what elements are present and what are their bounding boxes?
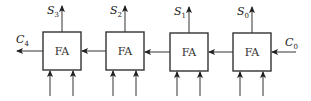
ripple-carry-adder-diagram: FA S3 FA S2 FA S1 FA S0 C4 C0 (0, 0, 311, 101)
full-adder-block-2: FA S2 (106, 4, 144, 96)
sum-label-s0: S0 (237, 5, 249, 20)
carry-in-label: C0 (285, 36, 298, 51)
carry-out-label: C4 (16, 33, 29, 48)
fa-label: FA (55, 45, 71, 58)
sum-label-s1: S1 (174, 5, 186, 20)
full-adder-block-0: FA S0 (233, 5, 271, 96)
full-adder-block-1: FA S1 (170, 5, 208, 96)
fa-label: FA (182, 46, 198, 59)
fa-label: FA (245, 46, 261, 59)
sum-label-s2: S2 (110, 4, 122, 19)
full-adder-block-3: FA S3 (43, 4, 81, 96)
sum-label-s3: S3 (47, 4, 59, 19)
fa-label: FA (118, 45, 134, 58)
